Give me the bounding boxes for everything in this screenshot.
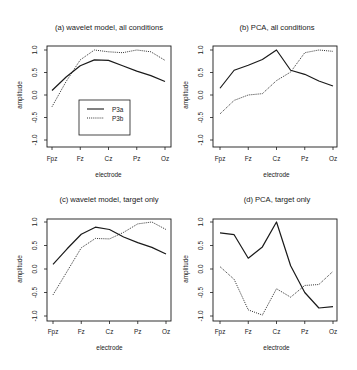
x-tick-label: Cz — [105, 155, 113, 162]
x-tick-label: Fpz — [47, 155, 58, 163]
y-axis-label: amplitude — [16, 255, 24, 283]
panel-a: (a) wavelet model, all conditions -1.0-0… — [16, 23, 171, 178]
x-tick-label: Oz — [329, 155, 337, 162]
x-axis-label: electrode — [263, 344, 290, 351]
x-tick-label: Pz — [134, 328, 141, 335]
y-tick-label: 0.5 — [197, 241, 204, 250]
panel-d-title: (d) PCA, target only — [244, 195, 311, 204]
x-tick-label: Cz — [273, 328, 281, 335]
y-tick-label: -0.5 — [31, 287, 38, 298]
panel-d: (d) PCA, target only -1.0-0.50.00.51.0am… — [182, 195, 337, 351]
y-tick-label: 1.0 — [197, 45, 204, 54]
series-line-p3b — [53, 222, 166, 295]
y-tick-label: 1.0 — [197, 217, 204, 226]
chart-canvas: (a) wavelet model, all conditions -1.0-0… — [0, 0, 357, 370]
x-tick-label: Fz — [245, 328, 252, 335]
series-line-p3a — [220, 222, 333, 308]
y-tick-label: 0.5 — [31, 241, 38, 250]
x-tick-label: Fz — [77, 155, 84, 162]
x-axis-label: electrode — [263, 171, 290, 178]
series-line-p3b — [52, 50, 165, 107]
y-axis-label: amplitude — [182, 255, 190, 283]
x-tick-label: Fpz — [215, 328, 226, 336]
panel-b-plot: -1.0-0.50.00.51.0amplitudeFpzFzCzPzOzele… — [182, 45, 337, 178]
series-line-p3a — [220, 50, 333, 88]
y-tick-label: 0.0 — [31, 264, 38, 273]
x-tick-label: Fpz — [48, 328, 59, 336]
x-tick-label: Cz — [273, 155, 281, 162]
panel-a-legend: P3a P3b — [79, 100, 130, 135]
panel-b-title: (b) PCA, all conditions — [239, 23, 314, 32]
x-tick-label: Fpz — [215, 155, 226, 163]
series-line-p3a — [52, 60, 165, 91]
y-tick-label: 0.0 — [197, 264, 204, 273]
y-tick-label: 1.0 — [31, 217, 38, 226]
plot-frame — [47, 219, 171, 321]
y-axis-label: amplitude — [182, 81, 190, 109]
x-tick-label: Oz — [161, 155, 169, 162]
y-tick-label: -0.5 — [197, 287, 204, 298]
y-tick-label: -0.5 — [197, 112, 204, 123]
x-tick-label: Pz — [301, 155, 308, 162]
series-line-p3a — [53, 227, 166, 264]
x-tick-label: Pz — [301, 328, 308, 335]
y-tick-label: 0.5 — [31, 68, 38, 77]
x-tick-label: Oz — [329, 328, 337, 335]
y-tick-label: 1.0 — [31, 45, 38, 54]
panel-c-title: (c) wavelet model, target only — [59, 195, 158, 204]
y-tick-label: -1.0 — [31, 134, 38, 145]
x-tick-label: Fz — [78, 328, 85, 335]
panel-d-plot: -1.0-0.50.00.51.0amplitudeFpzFzCzPzOzele… — [182, 217, 337, 351]
panel-a-title: (a) wavelet model, all conditions — [55, 23, 163, 32]
y-axis-label: amplitude — [16, 81, 24, 109]
panel-c-plot: -1.0-0.50.00.51.0amplitudeFpzFzCzPzOzele… — [16, 217, 171, 351]
y-tick-label: 0.0 — [197, 90, 204, 99]
panel-b: (b) PCA, all conditions -1.0-0.50.00.51.… — [182, 23, 337, 178]
series-line-p3b — [220, 267, 333, 315]
y-tick-label: -1.0 — [31, 310, 38, 321]
series-line-p3b — [220, 50, 333, 114]
x-tick-label: Fz — [245, 155, 252, 162]
y-tick-label: 0.0 — [31, 90, 38, 99]
y-tick-label: -1.0 — [197, 134, 204, 145]
y-tick-label: 0.5 — [197, 68, 204, 77]
figure-four-panel-line-charts: (a) wavelet model, all conditions -1.0-0… — [0, 0, 357, 370]
x-tick-label: Oz — [162, 328, 170, 335]
y-tick-label: -0.5 — [31, 112, 38, 123]
x-axis-label: electrode — [95, 171, 122, 178]
panel-c: (c) wavelet model, target only -1.0-0.50… — [16, 195, 171, 351]
x-axis-label: electrode — [96, 344, 123, 351]
y-tick-label: -1.0 — [197, 310, 204, 321]
legend-label-p3b: P3b — [112, 115, 124, 122]
legend-label-p3a: P3a — [112, 106, 124, 113]
x-tick-label: Cz — [106, 328, 114, 335]
plot-frame — [213, 46, 337, 147]
x-tick-label: Pz — [133, 155, 140, 162]
